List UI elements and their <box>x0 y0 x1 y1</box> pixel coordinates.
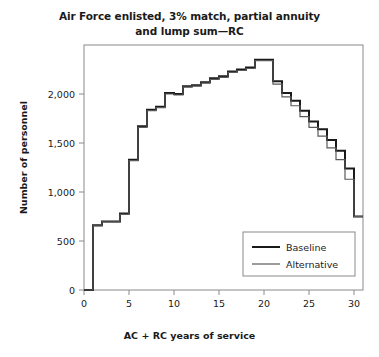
x-tick-label: 15 <box>213 298 225 309</box>
y-axis-ticks: 05001,0001,5002,000 <box>48 89 84 296</box>
x-tick-label: 0 <box>81 298 87 309</box>
x-tick-label: 5 <box>126 298 132 309</box>
y-tick-label: 1,000 <box>48 187 75 198</box>
y-tick-label: 2,000 <box>48 89 75 100</box>
x-tick-label: 30 <box>348 298 360 309</box>
y-tick-label: 500 <box>57 236 75 247</box>
chart-legend: BaselineAlternative <box>243 232 355 276</box>
chart-svg: 05001,0001,5002,000 051015202530 Baselin… <box>0 0 379 357</box>
x-tick-label: 10 <box>168 298 180 309</box>
legend-label-alternative: Alternative <box>286 259 338 270</box>
chart-container: Air Force enlisted, 3% match, partial an… <box>0 0 379 357</box>
x-tick-label: 20 <box>258 298 270 309</box>
x-axis-ticks: 051015202530 <box>81 290 360 309</box>
y-tick-label: 1,500 <box>48 138 75 149</box>
x-tick-label: 25 <box>303 298 315 309</box>
y-tick-label: 0 <box>69 285 75 296</box>
legend-label-baseline: Baseline <box>286 242 326 253</box>
